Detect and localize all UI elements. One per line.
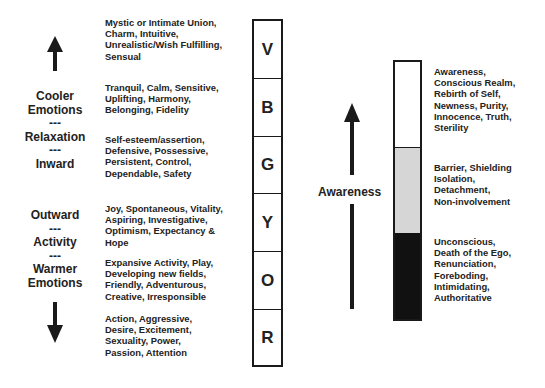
- description-black: Unconscious, Death of the Ego, Renunciat…: [434, 236, 511, 303]
- letter-r: R: [261, 328, 273, 348]
- letter-v: V: [262, 40, 273, 60]
- desc-line: Joy, Spontaneous, Vitality,: [105, 203, 223, 214]
- desc-line: Charm, Intuitive,: [105, 28, 222, 39]
- label-warmer: Warmer: [0, 262, 110, 276]
- down-arrow-icon: [46, 302, 64, 343]
- desc-line: Uplifting, Harmony,: [105, 93, 219, 104]
- description-gray: Barrier, Shielding Isolation, Detachment…: [434, 162, 512, 207]
- label-separator: ---: [0, 116, 110, 130]
- label-emotions: Emotions: [0, 276, 110, 290]
- awareness-bar: [393, 60, 422, 321]
- desc-line: Mystic or Intimate Union,: [105, 17, 222, 28]
- description-r: Action, Aggressive, Desire, Excitement, …: [105, 313, 192, 358]
- desc-line: Expansive Activity, Play,: [105, 257, 213, 268]
- segment-black: [395, 233, 420, 319]
- label-emotions: Emotions: [0, 103, 110, 117]
- desc-line: Desire, Excitement,: [105, 324, 192, 335]
- letter-o: O: [261, 271, 274, 291]
- cell-y: Y: [254, 194, 281, 252]
- description-b: Tranquil, Calm, Sensitive, Uplifting, Ha…: [105, 82, 219, 116]
- desc-line: Rebirth of Self,: [434, 88, 515, 99]
- desc-line: Persistent, Control,: [105, 156, 208, 167]
- label-separator: ---: [0, 143, 110, 157]
- desc-line: Authoritative: [434, 292, 511, 303]
- cell-b: B: [254, 79, 281, 137]
- desc-line: Sensual: [105, 51, 222, 62]
- awareness-label: Awareness: [318, 185, 381, 199]
- awareness-up-arrow-icon: [343, 103, 361, 175]
- desc-line: Belonging, Fidelity: [105, 104, 219, 115]
- desc-line: Death of the Ego,: [434, 247, 511, 258]
- letter-b: B: [261, 98, 273, 118]
- desc-line: Passion, Attention: [105, 347, 192, 358]
- cooler-labels: Cooler Emotions --- Relaxation --- Inwar…: [0, 89, 110, 170]
- desc-line: Conscious Realm,: [434, 77, 515, 88]
- desc-line: Detachment,: [434, 184, 512, 195]
- desc-line: Friendly, Adventurous,: [105, 279, 213, 290]
- desc-line: Developing new fields,: [105, 268, 213, 279]
- desc-line: Awareness,: [434, 66, 515, 77]
- letter-y: Y: [262, 213, 273, 233]
- label-inward: Inward: [0, 157, 110, 171]
- desc-line: Barrier, Shielding: [434, 162, 512, 173]
- desc-line: Innocence, Truth,: [434, 111, 515, 122]
- cell-v: V: [254, 21, 281, 79]
- description-g: Self-esteem/assertion, Defensive, Posses…: [105, 134, 208, 179]
- desc-line: Unrealistic/Wish Fulfilling,: [105, 39, 222, 50]
- color-column: V B G Y O R: [252, 19, 283, 367]
- desc-line: Optimism, Expectancy &: [105, 225, 223, 236]
- desc-line: Action, Aggressive,: [105, 313, 192, 324]
- desc-line: Creative, Irresponsible: [105, 291, 213, 302]
- desc-line: Aspiring, Investigative,: [105, 214, 223, 225]
- desc-line: Renunciation,: [434, 258, 511, 269]
- desc-line: Foreboding,: [434, 270, 511, 281]
- description-y: Joy, Spontaneous, Vitality, Aspiring, In…: [105, 203, 223, 248]
- label-separator: ---: [0, 249, 110, 263]
- segment-gray: [395, 148, 420, 233]
- desc-line: Defensive, Possessive,: [105, 145, 208, 156]
- label-cooler: Cooler: [0, 89, 110, 103]
- desc-line: Sexuality, Power,: [105, 335, 192, 346]
- desc-line: Newness, Purity,: [434, 100, 515, 111]
- cell-g: G: [254, 137, 281, 194]
- desc-line: Unconscious,: [434, 236, 511, 247]
- up-arrow-icon: [46, 36, 64, 71]
- desc-line: Non-involvement: [434, 196, 512, 207]
- label-separator: ---: [0, 222, 110, 236]
- desc-line: Isolation,: [434, 173, 512, 184]
- desc-line: Intimidating,: [434, 281, 511, 292]
- label-relaxation: Relaxation: [0, 130, 110, 144]
- desc-line: Sterility: [434, 122, 515, 133]
- description-white: Awareness, Conscious Realm, Rebirth of S…: [434, 66, 515, 133]
- desc-line: Self-esteem/assertion,: [105, 134, 208, 145]
- desc-line: Hope: [105, 237, 223, 248]
- desc-line: Tranquil, Calm, Sensitive,: [105, 82, 219, 93]
- cell-r: R: [254, 310, 281, 365]
- segment-white: [395, 62, 420, 148]
- label-outward: Outward: [0, 208, 110, 222]
- description-v: Mystic or Intimate Union, Charm, Intuiti…: [105, 17, 222, 62]
- warmer-labels: Outward --- Activity --- Warmer Emotions: [0, 208, 110, 289]
- letter-g: G: [261, 155, 274, 175]
- label-activity: Activity: [0, 235, 110, 249]
- description-o: Expansive Activity, Play, Developing new…: [105, 257, 213, 302]
- awareness-arrow-shaft: [350, 204, 354, 309]
- cell-o: O: [254, 252, 281, 310]
- desc-line: Dependable, Safety: [105, 168, 208, 179]
